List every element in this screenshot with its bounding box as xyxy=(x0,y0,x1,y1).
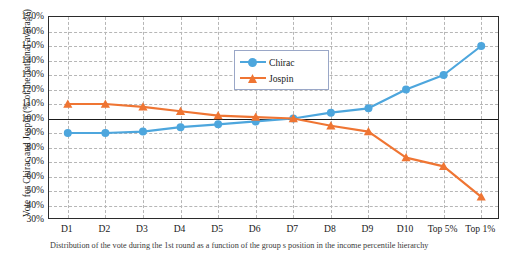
data-point-chirac[interactable] xyxy=(101,129,109,137)
chart-legend: Chirac Jospin xyxy=(234,50,329,90)
x-axis-tick-label: D1 xyxy=(61,224,73,234)
data-point-chirac[interactable] xyxy=(402,86,410,94)
chart-container: Vote for Chirac and Jospin (% of the nat… xyxy=(0,0,527,257)
legend-label-chirac: Chirac xyxy=(269,57,295,68)
legend-label-jospin: Jospin xyxy=(269,73,294,84)
series-line-jospin xyxy=(68,104,481,197)
legend-marker-chirac xyxy=(240,56,266,68)
data-point-chirac[interactable] xyxy=(139,128,147,136)
x-axis-tick-label: D5 xyxy=(211,224,223,234)
y-axis-title: Vote for Chirac and Jospin (% of the nat… xyxy=(22,0,32,228)
data-point-chirac[interactable] xyxy=(477,42,485,50)
data-point-chirac[interactable] xyxy=(64,129,72,137)
x-axis-tick-label: D10 xyxy=(397,224,414,234)
x-axis-tick-label: D4 xyxy=(174,224,186,234)
x-axis-tick-label: D3 xyxy=(136,224,148,234)
data-point-chirac[interactable] xyxy=(364,104,372,112)
x-axis-tick-label: D6 xyxy=(249,224,261,234)
x-axis-tick-label: D2 xyxy=(99,224,111,234)
legend-item-chirac[interactable]: Chirac xyxy=(240,54,323,70)
data-point-chirac[interactable] xyxy=(214,120,222,128)
x-axis-tick-label: D9 xyxy=(362,224,374,234)
x-axis-tick-label: D8 xyxy=(324,224,336,234)
data-point-chirac[interactable] xyxy=(327,109,335,117)
series-layer xyxy=(49,17,500,220)
data-point-chirac[interactable] xyxy=(440,71,448,79)
data-point-chirac[interactable] xyxy=(177,123,185,131)
plot-area xyxy=(48,16,499,219)
figure-caption: Distribution of the vote during the 1st … xyxy=(50,241,520,254)
x-axis-tick-label: D7 xyxy=(286,224,298,234)
x-axis-tick-label: Top 5% xyxy=(428,224,458,234)
legend-marker-jospin xyxy=(240,72,266,84)
legend-item-jospin[interactable]: Jospin xyxy=(240,70,323,86)
x-axis-tick-label: Top 1% xyxy=(465,224,495,234)
